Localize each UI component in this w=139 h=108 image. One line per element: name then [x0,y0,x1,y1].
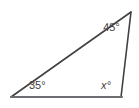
triangle-figure: 45° 35° x° [0,0,139,108]
angle-label-bottom-left: 35° [29,80,46,91]
triangle-graphic [0,0,139,108]
angle-label-bottom-right-unknown: x° [101,80,111,91]
triangle-side-right [121,12,131,97]
angle-label-top-right: 45° [103,22,120,33]
